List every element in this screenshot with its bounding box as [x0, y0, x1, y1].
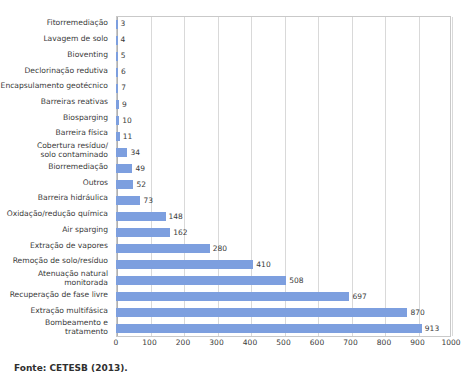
- bar-row: 5: [116, 48, 451, 64]
- bar-value-label: 10: [122, 117, 132, 125]
- bar-value-label: 34: [130, 149, 140, 157]
- bar-value-label: 913: [425, 325, 439, 333]
- bar[interactable]: [116, 196, 140, 205]
- bar-rows: 3456791011344952731481622804105086978709…: [116, 16, 451, 337]
- bar[interactable]: [116, 132, 120, 141]
- bar[interactable]: [116, 36, 118, 45]
- bar[interactable]: [116, 116, 119, 125]
- bar-row: 11: [116, 128, 451, 144]
- bar-value-label: 162: [173, 229, 187, 237]
- bar[interactable]: [116, 276, 286, 285]
- x-tick-300: 300: [209, 338, 223, 347]
- bar[interactable]: [116, 260, 253, 269]
- bar-value-label: 73: [143, 197, 153, 205]
- plot-wrapper: 3456791011344952731481622804105086978709…: [116, 16, 451, 337]
- bar-row: 508: [116, 273, 451, 289]
- category-label: Recuperação de fase livre: [0, 288, 112, 304]
- category-label: Cobertura resíduo/ solo contaminado: [0, 142, 112, 160]
- bar-value-label: 508: [289, 277, 303, 285]
- bar-value-label: 410: [256, 261, 270, 269]
- category-label: Fitorremediação: [0, 16, 112, 32]
- category-label: Barreira hidráulica: [0, 191, 112, 207]
- x-axis-tick-labels: 01002003004005006007008009001000: [116, 338, 451, 350]
- bar-row: 52: [116, 176, 451, 192]
- bar-row: 4: [116, 32, 451, 48]
- bar-row: 3: [116, 16, 451, 32]
- x-tick-400: 400: [243, 338, 257, 347]
- category-label: Atenuação natural monitorada: [0, 270, 112, 288]
- bar-row: 697: [116, 289, 451, 305]
- category-label: Remoção de solo/resíduo: [0, 254, 112, 270]
- category-label: Outros: [0, 175, 112, 191]
- bar-value-label: 870: [410, 309, 424, 317]
- category-label: Bombeamento e tratamento: [0, 319, 112, 337]
- bar-row: 148: [116, 209, 451, 225]
- bar-value-label: 49: [135, 165, 145, 173]
- bar[interactable]: [116, 84, 118, 93]
- category-label: Oxidação/redução química: [0, 207, 112, 223]
- bar[interactable]: [116, 292, 349, 301]
- bar[interactable]: [116, 324, 422, 333]
- bar-row: 913: [116, 321, 451, 337]
- bar-row: 410: [116, 257, 451, 273]
- bar[interactable]: [116, 228, 170, 237]
- bar-value-label: 4: [121, 36, 126, 44]
- bar-row: 10: [116, 112, 451, 128]
- bar-row: 9: [116, 96, 451, 112]
- x-tick-0: 0: [114, 338, 119, 347]
- bar[interactable]: [116, 52, 118, 61]
- category-label: Barreira física: [0, 126, 112, 142]
- x-tick-100: 100: [142, 338, 156, 347]
- category-label: Air sparging: [0, 223, 112, 239]
- bar-row: 7: [116, 80, 451, 96]
- bar-row: 162: [116, 225, 451, 241]
- x-tick-500: 500: [276, 338, 290, 347]
- bar-row: 6: [116, 64, 451, 80]
- x-tick-200: 200: [176, 338, 190, 347]
- bar[interactable]: [116, 20, 118, 29]
- category-label: Extração de vapores: [0, 238, 112, 254]
- bar-row: 280: [116, 241, 451, 257]
- x-tick-700: 700: [343, 338, 357, 347]
- bar-value-label: 148: [169, 213, 183, 221]
- figure-source-caption: Fonte: CETESB (2013).: [14, 363, 128, 373]
- bar[interactable]: [116, 148, 127, 157]
- bar-row: 73: [116, 193, 451, 209]
- category-label: Declorinação redutiva: [0, 63, 112, 79]
- bar-value-label: 3: [121, 20, 126, 28]
- bar-value-label: 5: [121, 52, 126, 60]
- category-label: Barreiras reativas: [0, 95, 112, 111]
- bar-value-label: 9: [122, 101, 127, 109]
- bar-row: 34: [116, 144, 451, 160]
- bar[interactable]: [116, 100, 119, 109]
- category-label: Biosparging: [0, 110, 112, 126]
- x-tick-600: 600: [310, 338, 324, 347]
- bar-value-label: 697: [352, 293, 366, 301]
- bar-value-label: 11: [123, 133, 133, 141]
- category-label: Bioventing: [0, 47, 112, 63]
- bar[interactable]: [116, 308, 407, 317]
- x-tick-800: 800: [377, 338, 391, 347]
- bar-value-label: 7: [121, 84, 126, 92]
- bar[interactable]: [116, 68, 118, 77]
- bar[interactable]: [116, 164, 132, 173]
- bar-value-label: 280: [213, 245, 227, 253]
- bar-row: 870: [116, 305, 451, 321]
- bar-value-label: 6: [121, 68, 126, 76]
- x-tick-900: 900: [410, 338, 424, 347]
- bar[interactable]: [116, 212, 166, 221]
- bar-value-label: 52: [136, 181, 146, 189]
- bar[interactable]: [116, 244, 210, 253]
- bar-row: 49: [116, 160, 451, 176]
- x-tick-1000: 1000: [441, 338, 460, 347]
- category-label: Extração multifásica: [0, 303, 112, 319]
- category-label: Biorremediação: [0, 160, 112, 176]
- gridline-1000: [452, 17, 453, 336]
- bar[interactable]: [116, 180, 133, 189]
- category-label: Encapsulamento geotécnico: [0, 79, 112, 95]
- category-axis-labels: FitorremediaçãoLavagem de soloBioventing…: [0, 16, 112, 337]
- category-label: Lavagem de solo: [0, 32, 112, 48]
